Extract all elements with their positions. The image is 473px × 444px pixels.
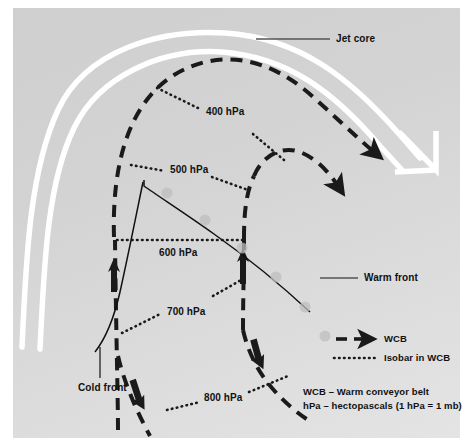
legend-note-wcb: WCB – Warm conveyor belt <box>303 385 429 398</box>
diagram-vector-layer <box>0 0 473 444</box>
warm-front-label: Warm front <box>364 272 418 283</box>
wcb-right-hook-branch <box>254 150 338 186</box>
warm-front-line <box>144 180 331 342</box>
isobar-500-label: 500 hPa <box>170 164 209 175</box>
isobar-600-label: 600 hPa <box>159 247 198 258</box>
wcb-left-limb <box>108 240 120 430</box>
isobar-400 <box>157 88 284 160</box>
legend-wcb-label: WCB <box>384 333 407 344</box>
figure-root: Jet core Warm front Cold front 400 hPa 5… <box>0 0 473 444</box>
jet-stream-arrow <box>22 33 436 349</box>
isobar-400-label: 400 hPa <box>206 106 245 117</box>
isobar-700-label: 700 hPa <box>167 306 206 317</box>
isobar-800-label: 800 hPa <box>204 392 243 403</box>
legend-note-hpa: hPa – hectopascals (1 hPa = 1 mb) <box>303 399 462 412</box>
wcb-lower-left-tail <box>118 356 150 436</box>
legend-isobar-label: Isobar in WCB <box>384 352 450 363</box>
jet-core-label: Jet core <box>336 33 375 44</box>
cold-front-label: Cold front <box>78 382 127 393</box>
wcb-lower-right-limb <box>243 330 308 420</box>
